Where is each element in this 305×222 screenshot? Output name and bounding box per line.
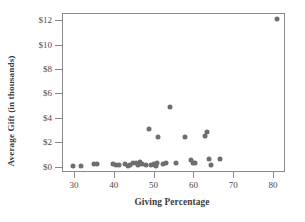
y-tick-mark bbox=[55, 167, 62, 168]
y-tick-mark bbox=[55, 93, 62, 94]
y-tick-label: $12 bbox=[12, 15, 52, 25]
y-tick-label: $10 bbox=[12, 40, 52, 50]
x-tick-label: 60 bbox=[178, 180, 208, 190]
y-tick-mark bbox=[55, 45, 62, 46]
x-tick-label: 70 bbox=[218, 180, 248, 190]
x-tick-label: 50 bbox=[139, 180, 169, 190]
x-tick-mark bbox=[74, 172, 75, 178]
y-tick-mark bbox=[55, 118, 62, 119]
x-axis-title: Giving Percentage bbox=[62, 197, 282, 207]
y-tick-label: $2 bbox=[12, 137, 52, 147]
x-tick-label: 40 bbox=[99, 180, 129, 190]
x-tick-mark bbox=[193, 172, 194, 178]
y-tick-label: $6 bbox=[12, 88, 52, 98]
y-tick-mark bbox=[55, 20, 62, 21]
scatter-plot-figure: Average Gift (in thousands) $0$2$4$6$8$1… bbox=[0, 0, 305, 222]
x-tick-mark bbox=[233, 172, 234, 178]
x-tick-mark bbox=[154, 172, 155, 178]
y-tick-label: $8 bbox=[12, 64, 52, 74]
x-tick-label: 80 bbox=[258, 180, 288, 190]
x-tick-mark bbox=[114, 172, 115, 178]
plot-area-frame bbox=[62, 13, 285, 172]
x-tick-mark bbox=[273, 172, 274, 178]
y-tick-label: $4 bbox=[12, 113, 52, 123]
x-tick-label: 30 bbox=[59, 180, 89, 190]
y-tick-label: $0 bbox=[12, 162, 52, 172]
y-axis-title: Average Gift (in thousands) bbox=[0, 0, 22, 222]
y-tick-mark bbox=[55, 69, 62, 70]
y-tick-mark bbox=[55, 142, 62, 143]
